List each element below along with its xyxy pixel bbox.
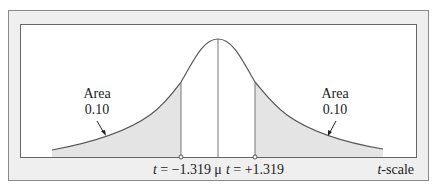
mean-label: μ <box>214 162 222 177</box>
x-axis-label: t-scale <box>377 162 414 177</box>
upper-critical-marker <box>253 155 257 159</box>
t-distribution-chart: Area 0.10 Area 0.10 t = −1.319 μ t = +1.… <box>0 0 435 190</box>
lower-critical-marker <box>179 155 183 159</box>
right-area-label: Area <box>321 86 349 101</box>
left-area-value: 0.10 <box>85 102 110 117</box>
lower-critical-label: t = −1.319 <box>153 162 211 177</box>
left-area-label: Area <box>83 86 111 101</box>
upper-critical-label: t = +1.319 <box>226 162 284 177</box>
right-area-value: 0.10 <box>323 102 348 117</box>
